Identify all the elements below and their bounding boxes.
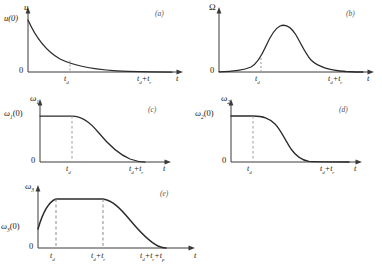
panel-d-id: (d) [339,106,348,114]
panel-c-xtick-td: td [66,165,71,176]
panel-a-zero-label: 0 [19,66,23,75]
panel-c: ω1 ω1(0) 0 td td+tr t (c) [0,92,191,182]
panel-e: ω3 ω3(0) 0 td td+tr td+tr+tp t (e) [0,182,260,275]
panel-b-ylabel: Ω [209,3,216,12]
panel-d-ylabel: ω2 [221,94,230,105]
panel-e-xtick-tdtrtp: td+tr+tp [140,252,164,263]
panel-a-id: (a) [155,10,164,18]
panel-a-ylabel: u [24,3,29,12]
panel-c-yvalue-label: ω1(0) [4,109,23,120]
panel-b-id: (b) [346,10,355,18]
panel-c-xtick-tdtr: td+tr [129,165,143,176]
panel-a: u u(0) 0 td td+tr t (a) [0,0,191,92]
panel-c-id: (c) [148,106,156,114]
panel-a-yvalue-label: u(0) [4,14,18,23]
panel-b: Ω 0 td td+tr t (b) [191,0,382,92]
panel-d: ω2 ω2(0) 0 td td+tr t (d) [191,92,382,182]
panel-e-zero-label: 0 [29,242,33,251]
panel-a-xaxis-label: t [176,74,178,83]
panel-c-ylabel: ω1 [30,94,39,105]
panel-e-ylabel: ω3 [25,182,34,193]
panel-d-xtick-tdtr: td+tr [320,165,334,176]
panel-d-yvalue-label: ω2(0) [195,109,214,120]
panel-e-xaxis-label: t [194,251,196,260]
panel-a-xtick-td: td [64,75,69,86]
panel-a-xtick-tdtr: td+tr [137,75,151,86]
panel-d-zero-label: 0 [222,156,226,165]
panel-b-xtick-td: td [255,75,260,86]
panel-e-plot [0,182,260,275]
panel-d-xaxis-label: t [354,164,356,173]
panel-d-xtick-td: td [247,165,252,176]
panel-b-zero-label: 0 [210,66,214,75]
panel-c-zero-label: 0 [31,156,35,165]
panel-e-xtick-td: td [50,252,55,263]
panel-e-id: (e) [160,190,168,198]
panel-c-xaxis-label: t [163,164,165,173]
figure-panels: u u(0) 0 td td+tr t (a) Ω 0 td td+tr t (… [0,0,382,275]
panel-b-xaxis-label: t [367,74,369,83]
panel-e-yvalue-label: ω3(0) [1,222,20,233]
panel-e-xtick-tdtr: td+tr [91,252,105,263]
panel-b-xtick-tdtr: td+tr [328,75,342,86]
